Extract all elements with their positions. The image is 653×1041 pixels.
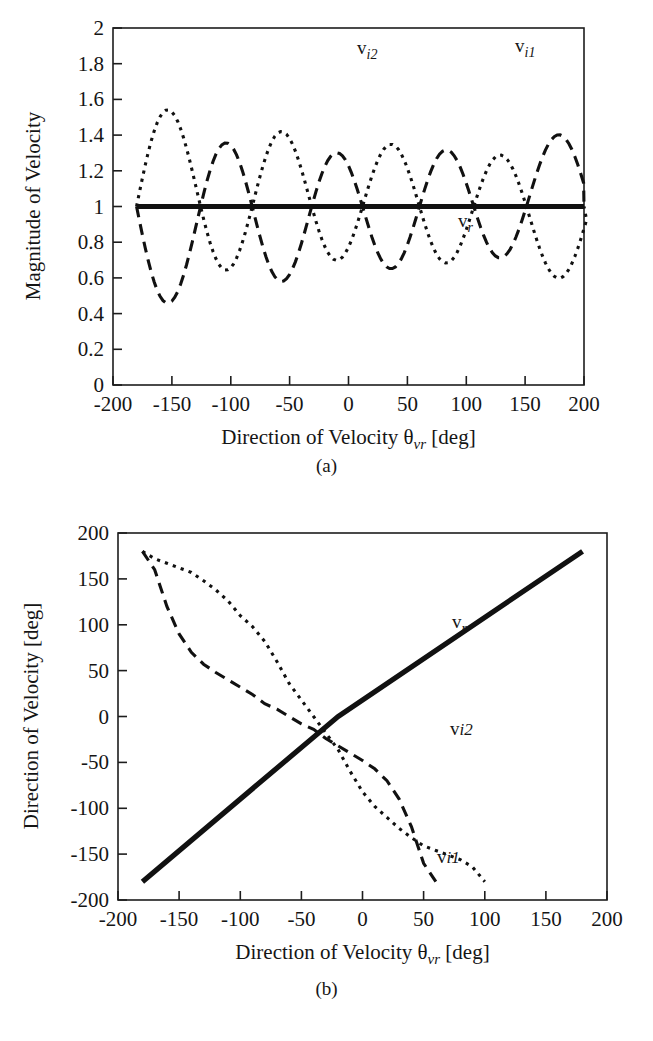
panel-a-y-tick-labels: 0 0.2 0.4 0.6 0.8 1 1.2 1.4 1.6 1.8 2 xyxy=(78,16,105,397)
svg-text:vr: vr xyxy=(458,210,474,235)
svg-text:Direction of Velocity θvr [deg: Direction of Velocity θvr [deg] xyxy=(221,425,475,452)
x-tick-label: 50 xyxy=(397,392,418,416)
panel-b-y-ticks xyxy=(118,533,127,900)
x-tick-label: 0 xyxy=(343,392,354,416)
x-axis-title-unit: [deg] xyxy=(431,425,475,449)
label-vr-base: v xyxy=(458,210,468,231)
x-tick-label: -150 xyxy=(160,907,199,931)
x-tick-label: 0 xyxy=(357,907,368,931)
y-tick-label: -150 xyxy=(71,842,110,866)
x-tick-label: 200 xyxy=(591,907,623,931)
panel-a-caption: (a) xyxy=(0,455,653,477)
label-vi2-sub: i2 xyxy=(460,720,474,739)
y-tick-label: 1 xyxy=(94,195,105,219)
x-tick-label: -50 xyxy=(276,392,304,416)
y-tick-label: 0.8 xyxy=(78,230,104,254)
y-tick-label: 150 xyxy=(78,567,110,591)
label-vi2-sub: i2 xyxy=(367,47,378,62)
x-tick-label: -200 xyxy=(99,907,138,931)
panel-a-x-axis-title: Direction of Velocity θvr [deg] xyxy=(221,425,475,452)
panel-b-plot-frame xyxy=(118,533,607,900)
y-tick-label: 50 xyxy=(88,659,109,683)
panel-b-label-vi1: vi1 xyxy=(437,846,460,867)
panel-b-x-tick-labels: -200 -150 -100 -50 0 50 100 150 200 xyxy=(99,907,623,931)
y-tick-label: 1.2 xyxy=(78,159,104,183)
x-axis-title-main: Direction of Velocity xyxy=(221,425,398,449)
panel-a-label-vi2: vi2 xyxy=(357,37,377,62)
label-vi1-base: v xyxy=(515,35,525,56)
x-tick-label: 100 xyxy=(451,392,483,416)
panel-a-label-vi1: vi1 xyxy=(515,35,535,60)
y-tick-label: 0.2 xyxy=(78,337,104,361)
panel-b-y-tick-labels: -200 -150 -100 -50 0 50 100 150 200 xyxy=(71,521,110,912)
theta-symbol: θ xyxy=(404,425,414,449)
label-vr-sub: r xyxy=(468,220,474,235)
svg-text:vi2: vi2 xyxy=(450,718,473,739)
y-tick-label: 1.4 xyxy=(78,123,105,147)
panel-a-x-ticks xyxy=(113,376,584,385)
panel-b-caption: (b) xyxy=(0,978,653,1000)
y-tick-label: -100 xyxy=(71,796,110,820)
x-axis-title-unit: [deg] xyxy=(445,940,489,964)
panel-b-label-vi2: vi2 xyxy=(450,718,473,739)
panel-a-y-ticks xyxy=(113,28,122,385)
y-tick-label: 100 xyxy=(78,613,110,637)
panel-b-curve-vi1 xyxy=(142,551,435,881)
svg-text:Direction of Velocity θvr [deg: Direction of Velocity θvr [deg] xyxy=(235,940,489,967)
panel-b-svg: -200 -150 -100 -50 0 50 100 150 200 -200… xyxy=(0,500,653,1041)
panel-b-y-axis-title: Direction of Velocity [deg] xyxy=(19,603,43,829)
x-tick-label: 200 xyxy=(568,392,600,416)
x-tick-label: -50 xyxy=(287,907,315,931)
x-tick-label: -200 xyxy=(94,392,133,416)
x-tick-label: 50 xyxy=(413,907,434,931)
panel-b-x-ticks xyxy=(118,891,607,900)
x-tick-label: 150 xyxy=(509,392,541,416)
x-axis-title-main: Direction of Velocity xyxy=(235,940,412,964)
theta-subscript: vr xyxy=(428,951,441,967)
x-tick-label: 150 xyxy=(530,907,562,931)
y-tick-label: -50 xyxy=(81,750,109,774)
y-tick-label: 1.8 xyxy=(78,52,104,76)
label-vi1-sub: i1 xyxy=(525,45,536,60)
panel-b-direction-chart: -200 -150 -100 -50 0 50 100 150 200 -200… xyxy=(0,500,653,1041)
x-tick-label: 100 xyxy=(469,907,501,931)
theta-subscript: vr xyxy=(414,436,427,452)
y-tick-label: 2 xyxy=(94,16,105,40)
x-tick-label: -100 xyxy=(212,392,251,416)
panel-b-curve-vr xyxy=(142,551,582,881)
panel-a-svg: 0 0.2 0.4 0.6 0.8 1 1.2 1.4 1.6 1.8 2 -2… xyxy=(0,0,653,500)
panel-b-curve-vi2 xyxy=(142,551,484,881)
y-tick-label: 1.6 xyxy=(78,87,104,111)
label-vi2-base: v xyxy=(357,37,367,58)
label-vi1-sub: i1 xyxy=(447,848,460,867)
label-vr-base: v xyxy=(452,611,462,632)
x-tick-label: -100 xyxy=(221,907,260,931)
svg-text:vi2: vi2 xyxy=(357,37,377,62)
label-vi1-base: v xyxy=(437,846,447,867)
label-vi2-base: v xyxy=(450,718,460,739)
y-tick-label: 0.6 xyxy=(78,266,104,290)
label-vr-sub: r xyxy=(462,621,468,636)
x-tick-label: -150 xyxy=(153,392,192,416)
panel-a-y-axis-title: Magnitude of Velocity xyxy=(21,111,45,300)
y-tick-label: 0 xyxy=(99,705,110,729)
svg-text:vi1: vi1 xyxy=(437,846,460,867)
y-tick-label: 0.4 xyxy=(78,302,105,326)
theta-symbol: θ xyxy=(418,940,428,964)
svg-text:vi1: vi1 xyxy=(515,35,535,60)
panel-a-label-vr: vr xyxy=(458,210,474,235)
y-tick-label: 200 xyxy=(78,521,110,545)
panel-b-x-axis-title: Direction of Velocity θvr [deg] xyxy=(235,940,489,967)
panel-a-x-tick-labels: -200 -150 -100 -50 0 50 100 150 200 xyxy=(94,392,600,416)
figure-root: 0 0.2 0.4 0.6 0.8 1 1.2 1.4 1.6 1.8 2 -2… xyxy=(0,0,653,1041)
panel-a-magnitude-chart: 0 0.2 0.4 0.6 0.8 1 1.2 1.4 1.6 1.8 2 -2… xyxy=(0,0,653,500)
